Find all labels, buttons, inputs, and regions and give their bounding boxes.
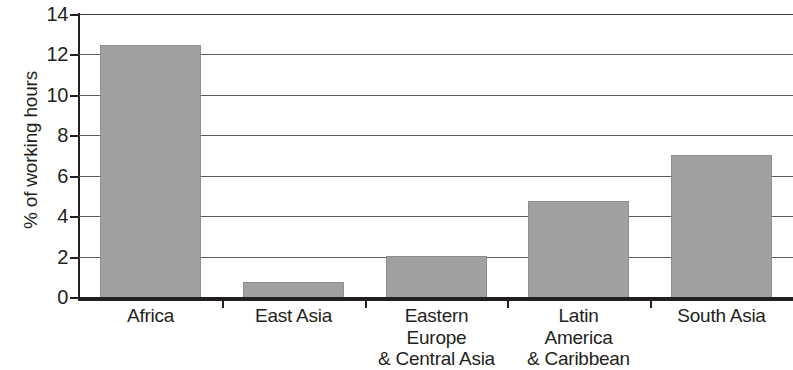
x-axis-category-label: LatinAmerica& Caribbean xyxy=(507,305,650,370)
category-label-line: East Asia xyxy=(222,305,365,327)
gridline xyxy=(79,14,793,15)
y-axis-tick-label: 14 xyxy=(34,4,68,24)
y-axis-tick-mark xyxy=(70,216,79,218)
x-axis-category-labels: AfricaEast AsiaEasternEurope& Central As… xyxy=(0,305,793,370)
plot-area xyxy=(79,14,793,297)
x-axis-category-label: Africa xyxy=(79,305,222,327)
y-axis-tick-label: 4 xyxy=(34,206,68,226)
x-axis-category-label: EasternEurope& Central Asia xyxy=(365,305,508,370)
y-axis-tick-label: 0 xyxy=(34,287,68,307)
x-axis-line xyxy=(78,297,793,301)
category-label-line: Latin xyxy=(507,305,650,327)
bar-chart: % of working hours 02468101214 AfricaEas… xyxy=(0,0,793,370)
x-axis-tick-mark xyxy=(507,301,509,308)
category-label-line: & Central Asia xyxy=(365,348,508,370)
x-axis-tick-mark xyxy=(365,301,367,308)
bar[interactable] xyxy=(386,256,487,297)
y-axis-tick-mark xyxy=(70,14,79,16)
y-axis-tick-mark xyxy=(70,257,79,259)
category-label-line: South Asia xyxy=(650,305,793,327)
y-axis-tick-mark xyxy=(70,95,79,97)
bar[interactable] xyxy=(528,201,629,297)
category-label-line: Europe xyxy=(365,327,508,349)
category-label-line: Eastern xyxy=(365,305,508,327)
y-axis-tick-mark xyxy=(70,176,79,178)
category-label-line: America xyxy=(507,327,650,349)
y-axis-tick-label: 8 xyxy=(34,125,68,145)
y-axis-tick-mark xyxy=(70,135,79,137)
category-label-line: Africa xyxy=(79,305,222,327)
bar[interactable] xyxy=(100,45,201,297)
category-label-line: & Caribbean xyxy=(507,348,650,370)
y-axis-tick-mark xyxy=(70,297,79,299)
x-axis-tick-mark xyxy=(650,301,652,308)
y-axis-tick-label: 6 xyxy=(34,166,68,186)
x-axis-category-label: East Asia xyxy=(222,305,365,327)
x-axis-tick-mark xyxy=(222,301,224,308)
y-axis-tick-label: 10 xyxy=(34,85,68,105)
bar[interactable] xyxy=(671,155,772,297)
y-axis-tick-label: 2 xyxy=(34,247,68,267)
y-axis-tick-label: 12 xyxy=(34,44,68,64)
bar[interactable] xyxy=(243,282,344,297)
y-axis-tick-mark xyxy=(70,54,79,56)
x-axis-category-label: South Asia xyxy=(650,305,793,327)
